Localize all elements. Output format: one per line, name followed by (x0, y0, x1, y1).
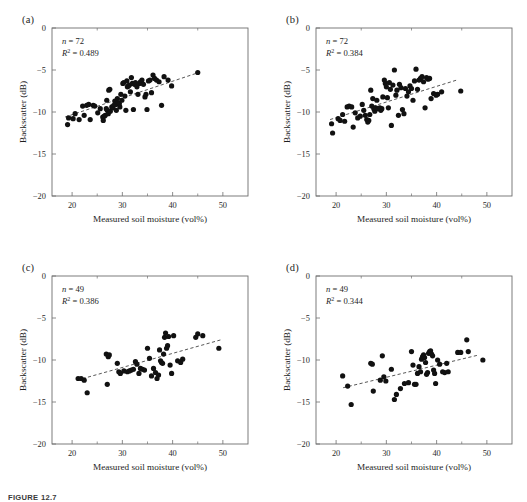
data-point (157, 347, 162, 352)
data-point (71, 116, 76, 121)
y-axis-title: Backscatter (dB) (18, 329, 28, 391)
x-tick-label: 20 (68, 201, 76, 210)
data-point (430, 353, 435, 358)
n-annotation: n = 72 (62, 36, 84, 46)
y-tick-label: −15 (297, 150, 310, 159)
data-point (143, 92, 148, 97)
data-point (168, 362, 173, 367)
data-point (412, 78, 417, 83)
data-point (136, 371, 141, 376)
x-tick-label: 40 (168, 201, 176, 210)
data-point (77, 117, 82, 122)
data-point (425, 370, 430, 375)
data-point (142, 367, 147, 372)
data-point (340, 112, 345, 117)
panel-c: (c) 0−5−10−15−2020304050Measured soil mo… (0, 248, 263, 498)
x-axis-title: Measured soil moisture (vol%) (93, 214, 207, 224)
y-tick-label: −5 (37, 314, 46, 323)
data-point (413, 67, 418, 72)
data-point (338, 118, 343, 123)
data-point (398, 386, 403, 391)
y-tick-label: −10 (297, 108, 310, 117)
data-point (409, 86, 414, 91)
data-point (394, 392, 399, 397)
data-point (361, 108, 366, 113)
panel-a-plot: 0−5−10−15−2020304050Measured soil moistu… (0, 0, 263, 250)
r2-annotation: R2 = 0.344 (325, 296, 363, 306)
y-tick-label: −20 (33, 192, 46, 201)
data-point (345, 383, 350, 388)
data-point (145, 346, 150, 351)
data-point (389, 367, 394, 372)
data-point (92, 104, 97, 109)
x-tick-label: 50 (219, 449, 227, 458)
x-axis-title: Measured soil moisture (vol%) (93, 462, 207, 472)
data-point (149, 90, 154, 95)
data-point (446, 369, 451, 374)
panel-b: (b) 0−5−10−15−2020304050Measured soil mo… (264, 0, 527, 250)
x-tick-label: 30 (118, 449, 126, 458)
data-point (169, 371, 174, 376)
data-point (165, 343, 170, 348)
r2-annotation: R2 = 0.384 (325, 48, 363, 58)
data-point (353, 110, 358, 115)
x-tick-label: 50 (219, 201, 227, 210)
data-point (380, 353, 385, 358)
r2-annotation: R2 = 0.386 (61, 296, 99, 306)
data-point (123, 108, 128, 113)
data-point (385, 95, 390, 100)
data-point (379, 106, 384, 111)
data-point (195, 331, 200, 336)
panel-d: (d) 0−5−10−15−2020304050Measured soil mo… (264, 248, 527, 498)
y-tick-label: −15 (33, 398, 46, 407)
data-point (480, 357, 485, 362)
y-tick-label: −10 (297, 356, 310, 365)
data-point (358, 114, 363, 119)
data-point (360, 102, 365, 107)
y-axis-title: Backscatter (dB) (282, 81, 292, 143)
data-point (82, 378, 87, 383)
data-point (86, 102, 91, 107)
data-point (389, 123, 394, 128)
n-annotation: n = 49 (326, 284, 348, 294)
data-point (368, 88, 373, 93)
data-point (85, 390, 90, 395)
data-point (180, 357, 185, 362)
data-point (200, 333, 205, 338)
data-point (122, 93, 127, 98)
y-tick-label: 0 (42, 272, 46, 281)
data-point (119, 98, 124, 103)
y-tick-label: −10 (33, 356, 46, 365)
data-point (398, 85, 403, 90)
data-point (134, 362, 139, 367)
y-tick-label: −10 (33, 108, 46, 117)
data-point (161, 74, 166, 79)
data-point (437, 362, 442, 367)
data-point (433, 381, 438, 386)
data-point (396, 113, 401, 118)
data-point (161, 352, 166, 357)
data-point (367, 112, 372, 117)
data-point (422, 355, 427, 360)
data-point (329, 121, 334, 126)
x-tick-label: 40 (432, 201, 440, 210)
data-point (392, 67, 397, 72)
data-point (171, 333, 176, 338)
data-point (351, 125, 356, 130)
data-point (147, 356, 152, 361)
data-point (409, 349, 414, 354)
data-point (88, 117, 93, 122)
data-point (131, 107, 136, 112)
data-point (342, 119, 347, 124)
x-tick-label: 40 (168, 449, 176, 458)
x-axis-title: Measured soil moisture (vol%) (357, 462, 471, 472)
panel-b-plot: 0−5−10−15−2020304050Measured soil moistu… (264, 0, 527, 250)
data-point (410, 362, 415, 367)
data-point (195, 70, 200, 75)
data-point (401, 111, 406, 116)
data-point (415, 87, 420, 92)
data-point (371, 388, 376, 393)
data-point (413, 382, 418, 387)
data-point (165, 77, 170, 82)
data-point (156, 373, 161, 378)
